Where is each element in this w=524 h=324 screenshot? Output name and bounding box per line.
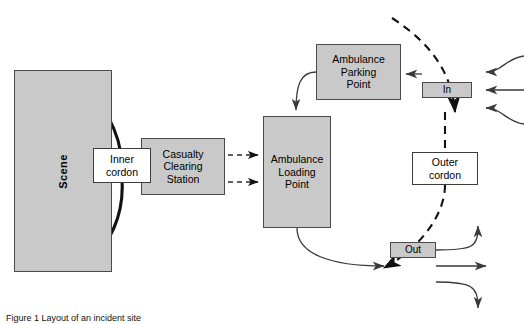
edge-inbound-traffic-upper: [486, 56, 524, 72]
node-ambulance-loading-point[interactable]: Ambulance Loading Point: [263, 116, 331, 228]
node-casualty-clearing-station-label: Casualty Clearing Station: [163, 148, 204, 185]
node-out-gate-label: Out: [405, 244, 421, 256]
node-out-gate[interactable]: Out: [390, 242, 436, 258]
node-outer-cordon-label: Outer cordon: [429, 156, 461, 181]
node-ambulance-parking-point[interactable]: Ambulance Parking Point: [316, 44, 401, 100]
node-scene-label: Scene: [57, 154, 70, 188]
node-outer-cordon[interactable]: Outer cordon: [412, 152, 478, 185]
node-ambulance-parking-point-label: Ambulance Parking Point: [332, 53, 385, 90]
edge-inbound-traffic-lower: [486, 108, 524, 124]
edge-outbound-traffic-lower: [436, 282, 478, 308]
node-ambulance-loading-point-label: Ambulance Loading Point: [271, 153, 324, 190]
node-in-gate[interactable]: In: [422, 82, 472, 98]
edge-alp-to-out: [297, 228, 384, 266]
node-inner-cordon-label: Inner cordon: [106, 153, 138, 178]
edge-outbound-traffic-upper: [436, 226, 478, 250]
node-casualty-clearing-station[interactable]: Casualty Clearing Station: [141, 138, 225, 195]
edge-app-to-alp: [296, 72, 316, 110]
node-in-gate-label: In: [443, 84, 451, 96]
figure-caption: Figure 1 Layout of an incident site: [6, 313, 141, 324]
node-inner-cordon[interactable]: Inner cordon: [93, 148, 151, 183]
diagram-canvas: Scene Inner cordon Casualty Clearing Sta…: [0, 0, 524, 324]
